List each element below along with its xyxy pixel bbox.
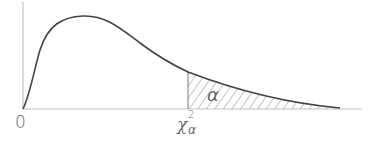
- critical-value-superscript: 2: [188, 110, 194, 120]
- density-curve: [23, 16, 340, 109]
- critical-value-label: χ 2 α: [177, 116, 187, 133]
- alpha-area-label: α: [207, 86, 219, 104]
- origin-label: 0: [15, 114, 26, 131]
- critical-value-subscript: α: [188, 124, 196, 136]
- critical-value-base: χ: [177, 114, 187, 134]
